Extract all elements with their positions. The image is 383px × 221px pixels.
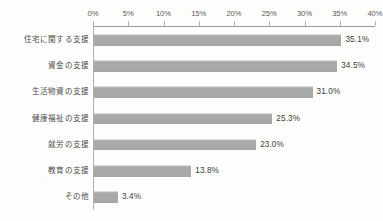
x-tick-label: 10% [156,8,171,19]
bar [94,35,341,46]
x-tick-label: 15% [191,8,206,19]
bar-value-label: 35.1% [345,35,369,45]
bar-row: 住宅に関する支援35.1% [0,27,383,53]
bar-row: 教育の支援13.8% [0,158,383,184]
bar-row: 生活物資の支援31.0% [0,79,383,105]
category-label: 資金の支援 [48,61,89,71]
x-tick-label: 5% [123,8,134,19]
bar-chart-figure: 0%5%10%15%20%25%30%35%40% 住宅に関する支援35.1%資… [0,0,383,221]
bar-row: その他3.4% [0,184,383,210]
bar-row: 健康福祉の支援25.3% [0,106,383,132]
x-tick-label: 20% [226,8,241,19]
bar [94,87,313,98]
x-axis-tick-labels: 0%5%10%15%20%25%30%35%40% [0,8,383,19]
bar-rows: 住宅に関する支援35.1%資金の支援34.5%生活物資の支援31.0%健康福祉の… [0,27,383,213]
bar-value-label: 23.0% [260,140,284,150]
x-tick-label: 30% [297,8,312,19]
category-label: 就労の支援 [48,140,89,150]
category-label: 教育の支援 [48,166,89,176]
category-label: 健康福祉の支援 [32,114,89,124]
bar-value-label: 3.4% [122,192,141,202]
bar [94,113,272,124]
bar [94,166,191,177]
bar-row: 資金の支援34.5% [0,53,383,79]
category-label: その他 [65,192,89,202]
chart-title [3,0,243,4]
x-tick-label: 25% [262,8,277,19]
category-label: 住宅に関する支援 [24,35,89,45]
bar-value-label: 25.3% [276,114,300,124]
x-tick-mark [375,21,376,26]
bar [94,192,118,203]
category-label: 生活物資の支援 [32,87,89,97]
x-tick-label: 40% [367,8,382,19]
x-tick-label: 0% [88,8,99,19]
bar-row: 就労の支援23.0% [0,132,383,158]
x-tick-label: 35% [332,8,347,19]
bar-value-label: 13.8% [195,166,219,176]
bar-value-label: 31.0% [317,87,341,97]
bar [94,61,337,72]
bar-value-label: 34.5% [341,61,365,71]
bar [94,140,256,151]
